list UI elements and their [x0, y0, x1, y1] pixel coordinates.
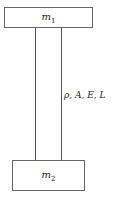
bottom-mass-label: m2	[42, 169, 56, 183]
rod-properties-label: ρ, A, E, L	[64, 90, 106, 100]
top-mass-block: m1	[4, 7, 93, 28]
bottom-mass-block: m2	[12, 160, 85, 191]
top-mass-label: m1	[42, 11, 56, 25]
elastic-rod	[35, 28, 62, 161]
